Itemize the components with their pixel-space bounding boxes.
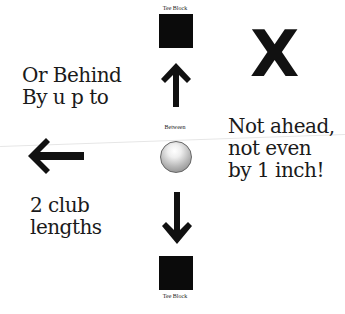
between-label: Between — [145, 124, 205, 130]
left-text-bottom: 2 club lengths — [30, 194, 102, 238]
top-block-label: Tee Block — [145, 5, 205, 11]
down-arrow-icon — [161, 192, 193, 247]
bottom-tee-block — [159, 256, 193, 290]
right-text: Not ahead, not even by 1 inch! — [228, 115, 335, 181]
x-mark-icon: X — [250, 22, 299, 86]
left-line-3: 2 club — [30, 194, 102, 216]
right-line-2: not even — [228, 137, 335, 159]
right-line-3: by 1 inch! — [228, 159, 335, 181]
top-tee-block — [159, 14, 193, 48]
bottom-block-label: Tee Block — [145, 293, 205, 299]
left-line-1: Or Behind — [22, 64, 121, 86]
left-line-4: lengths — [30, 216, 102, 238]
left-line-2: By u p to — [22, 86, 121, 108]
up-arrow-icon — [160, 63, 192, 107]
left-arrow-icon — [28, 138, 84, 174]
left-text-top: Or Behind By u p to — [22, 64, 121, 108]
golf-ball-icon — [160, 141, 192, 173]
right-line-1: Not ahead, — [228, 115, 335, 137]
